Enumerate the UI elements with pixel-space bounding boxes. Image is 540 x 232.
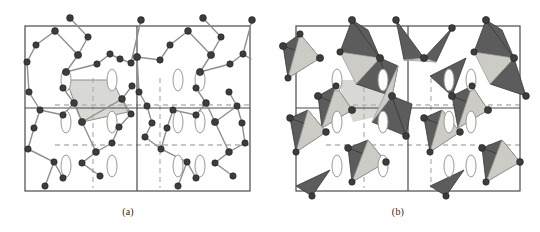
panel-b-caption: (b) [378, 206, 418, 217]
figure-canvas [0, 0, 540, 232]
panel-a-caption: (a) [108, 206, 148, 217]
crystal-structure-figure: (a) (b) [0, 0, 540, 232]
